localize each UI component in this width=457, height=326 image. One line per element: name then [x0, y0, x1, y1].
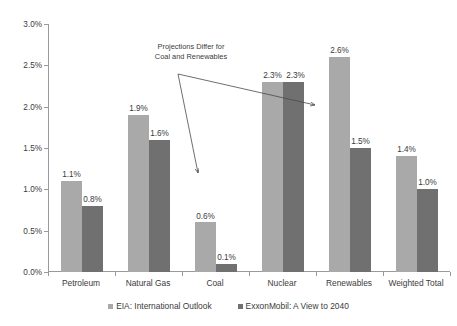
y-tick-label: 3.0%: [23, 20, 42, 29]
bar-exxon-natural-gas[interactable]: [149, 140, 170, 272]
legend-label-eia: EIA: International Outlook: [116, 301, 211, 311]
x-category-label-petroleum: Petroleum: [62, 278, 100, 288]
bar-group-nuclear: 2.3% 2.3%: [249, 24, 316, 272]
bar-value-exxon-weighted-total: 1.0%: [418, 178, 437, 187]
bar-group-weighted-total: 1.4% 1.0%: [383, 24, 450, 272]
bar-value-eia-natural-gas: 1.9%: [129, 104, 148, 113]
chart-legend: EIA: International Outlook ExxonMobil: A…: [0, 301, 457, 311]
bar-eia-natural-gas[interactable]: [128, 115, 149, 272]
bar-value-exxon-coal: 0.1%: [217, 253, 236, 262]
y-tick-label: 1.5%: [23, 144, 42, 153]
bar-value-eia-nuclear: 2.3%: [263, 71, 282, 80]
annotation-callout: Projections Differ for Coal and Renewabl…: [133, 42, 249, 62]
x-tick-mark: [450, 272, 451, 276]
legend-swatch-icon: [238, 304, 243, 309]
x-tick-mark: [249, 272, 250, 276]
legend-item-eia[interactable]: EIA: International Outlook: [108, 301, 211, 311]
bar-eia-renewables[interactable]: [329, 57, 350, 272]
x-tick-mark: [182, 272, 183, 276]
bar-exxon-petroleum[interactable]: [82, 206, 103, 272]
x-category-label-renewables: Renewables: [326, 278, 372, 288]
bar-value-exxon-natural-gas: 1.6%: [150, 129, 169, 138]
bar-value-eia-petroleum: 1.1%: [62, 170, 81, 179]
annotation-line-2: Coal and Renewables: [133, 52, 249, 62]
bar-value-eia-weighted-total: 1.4%: [397, 145, 416, 154]
x-category-label-nuclear: Nuclear: [268, 278, 297, 288]
legend-item-exxonmobil[interactable]: ExxonMobil: A View to 2040: [238, 301, 349, 311]
bar-exxon-coal[interactable]: [216, 264, 237, 272]
bar-eia-nuclear[interactable]: [262, 82, 283, 272]
annotation-line-1: Projections Differ for: [133, 42, 249, 52]
y-tick-label: 2.0%: [23, 102, 42, 111]
bar-eia-coal[interactable]: [195, 222, 216, 272]
bar-eia-petroleum[interactable]: [61, 181, 82, 272]
bar-group-petroleum: 1.1% 0.8%: [48, 24, 115, 272]
y-tick-label: 0.0%: [23, 268, 42, 277]
bar-value-exxon-nuclear: 2.3%: [286, 71, 305, 80]
bar-value-eia-coal: 0.6%: [196, 212, 215, 221]
bar-group-renewables: 2.6% 1.5%: [316, 24, 383, 272]
x-tick-mark: [383, 272, 384, 276]
x-category-label-coal: Coal: [206, 278, 223, 288]
bar-exxon-renewables[interactable]: [350, 148, 371, 272]
y-tick-label: 2.5%: [23, 61, 42, 70]
legend-label-exxonmobil: ExxonMobil: A View to 2040: [246, 301, 349, 311]
x-tick-mark: [316, 272, 317, 276]
y-tick-label: 0.5%: [23, 226, 42, 235]
plot-area: 0.0% 0.5% 1.0% 1.5% 2.0% 2.5% 3.0%: [48, 24, 450, 272]
x-category-label-weighted-total: Weighted Total: [388, 278, 443, 288]
bar-chart: 0.0% 0.5% 1.0% 1.5% 2.0% 2.5% 3.0%: [0, 0, 457, 326]
bar-exxon-weighted-total[interactable]: [417, 189, 438, 272]
legend-swatch-icon: [108, 304, 113, 309]
x-tick-mark: [115, 272, 116, 276]
bar-exxon-nuclear[interactable]: [283, 82, 304, 272]
bar-value-exxon-renewables: 1.5%: [351, 137, 370, 146]
x-tick-mark: [48, 272, 49, 276]
bar-eia-weighted-total[interactable]: [396, 156, 417, 272]
bar-value-eia-renewables: 2.6%: [330, 46, 349, 55]
y-tick-label: 1.0%: [23, 185, 42, 194]
x-category-label-natural-gas: Natural Gas: [126, 278, 171, 288]
bar-value-exxon-petroleum: 0.8%: [83, 195, 102, 204]
